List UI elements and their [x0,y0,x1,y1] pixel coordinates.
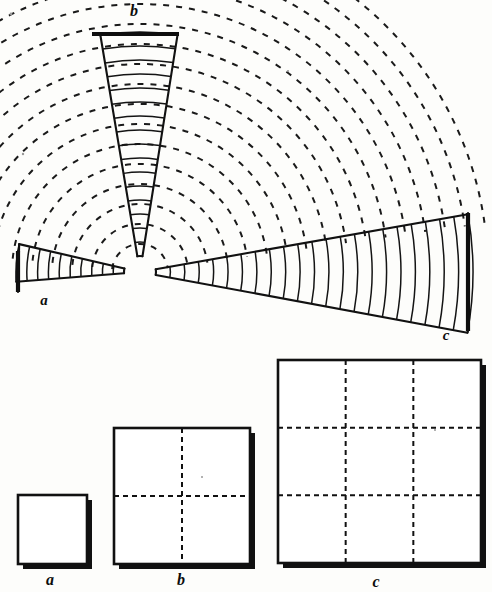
beam-rung [128,200,151,201]
beam-rung [227,257,228,288]
beam-rung [255,252,257,294]
wavefront-arc [0,0,485,236]
beam-rung [368,232,372,315]
square-label-a: a [46,571,54,588]
beam-rung [81,259,83,277]
area-square-b [114,428,255,569]
area-square-a [18,495,92,569]
beam-rung [113,266,114,274]
beam-edge-c-a [156,214,468,269]
wavefront-arc [0,84,326,252]
beam-rung [397,227,401,320]
beam-label-a: a [40,292,48,308]
wavefront-arc [0,24,386,246]
beam-rung [121,158,158,160]
inverse-square-law-figure: abcabc [0,0,492,592]
wavefront-arc [92,224,187,267]
beam-rung [453,217,458,330]
beam-rung [425,222,430,325]
beam-rung [297,244,300,301]
beam-rung [198,262,199,283]
beam-rung [103,46,176,49]
paper-speck [201,476,203,478]
beam-rung [110,88,169,91]
beam-cap-tick [467,331,468,333]
beam-rung [326,239,329,306]
beam-rung [105,60,173,63]
beam-rung [112,102,167,104]
wavefront-arc [0,44,366,248]
paper-speck [10,13,13,16]
beam-rung [114,116,164,118]
beam-rung [241,254,243,290]
paper-speck [22,153,24,155]
beam-rung [212,259,213,285]
wavefront-arc [0,4,405,244]
area-square-c [278,360,486,568]
beam-rung [340,237,343,309]
beam-rung [124,172,156,173]
beam-cap-tick [18,244,19,292]
beam-rung [354,234,358,311]
beam-rung [59,254,61,279]
beam-edge-c-b [156,275,468,333]
beam-label-b: b [130,2,138,19]
wavefront-arc [33,164,247,261]
beam-rung [133,228,147,229]
beam-label-c: c [443,327,450,343]
beam-rung [283,247,285,299]
square-face [278,360,481,563]
figure-canvas: abcabc [0,0,492,592]
beam-rung [269,249,271,296]
beam-rung [48,251,50,279]
beam-rung [184,264,185,280]
light-beams-group [16,32,473,333]
beam-rung [382,229,386,317]
beam-rung [170,267,171,278]
beam-rung [411,224,416,322]
beam-rung [92,261,93,276]
beam-rung [439,219,444,327]
beam-rung [107,74,171,77]
beam-rung [102,264,103,275]
beam-cap-tick [93,34,100,35]
square-face [18,495,87,564]
wavefront-arc [0,64,346,250]
beam-rung [126,186,154,187]
paper-speck [434,429,436,431]
paper-speck [287,70,289,72]
square-label-b: b [177,571,185,588]
beam-rung [70,256,72,277]
area-squares-group [18,360,486,569]
beam-rung [38,249,41,280]
square-label-c: c [372,573,379,590]
beam-rung [27,247,30,281]
light-beam-a [16,244,124,292]
beam-rung [117,130,163,132]
beam-rung [130,214,149,215]
beam-rung [312,242,315,304]
